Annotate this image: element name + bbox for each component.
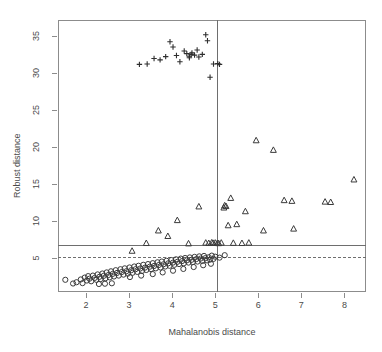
chi-square-cutoff-dashed bbox=[58, 257, 366, 258]
x-tick-mark bbox=[258, 293, 259, 298]
y-tick-label: 20 bbox=[30, 135, 42, 159]
y-tick-label: 35 bbox=[30, 24, 42, 48]
x-tick-label: 2 bbox=[71, 300, 101, 310]
x-tick-label: 3 bbox=[114, 300, 144, 310]
y-tick-mark bbox=[52, 147, 57, 148]
x-tick-mark bbox=[172, 293, 173, 298]
x-axis-title: Mahalanobis distance bbox=[160, 327, 264, 337]
y-tick-label: 10 bbox=[30, 209, 42, 233]
y-tick-mark bbox=[52, 73, 57, 74]
x-tick-mark bbox=[86, 293, 87, 298]
x-tick-mark bbox=[215, 293, 216, 298]
x-tick-mark bbox=[301, 293, 302, 298]
y-tick-mark bbox=[52, 258, 57, 259]
x-tick-mark bbox=[129, 293, 130, 298]
y-tick-label: 5 bbox=[30, 246, 42, 270]
x-tick-mark bbox=[344, 293, 345, 298]
y-tick-mark bbox=[52, 110, 57, 111]
y-tick-mark bbox=[52, 184, 57, 185]
y-axis-title: Robust distance bbox=[12, 133, 22, 198]
robust-cutoff-solid bbox=[58, 245, 366, 246]
y-tick-label: 30 bbox=[30, 61, 42, 85]
mahalanobis-cutoff-vertical bbox=[217, 20, 218, 292]
x-tick-label: 5 bbox=[200, 300, 230, 310]
y-tick-mark bbox=[52, 221, 57, 222]
y-tick-label: 25 bbox=[30, 98, 42, 122]
plot-frame bbox=[58, 20, 366, 292]
x-tick-label: 7 bbox=[286, 300, 316, 310]
x-tick-label: 4 bbox=[157, 300, 187, 310]
x-tick-label: 6 bbox=[243, 300, 273, 310]
y-tick-label: 15 bbox=[30, 172, 42, 196]
y-tick-mark bbox=[52, 36, 57, 37]
x-tick-label: 8 bbox=[329, 300, 359, 310]
robust-vs-mahalanobis-distance-plot: 23456785101520253035 Mahalanobis distanc… bbox=[0, 0, 382, 352]
